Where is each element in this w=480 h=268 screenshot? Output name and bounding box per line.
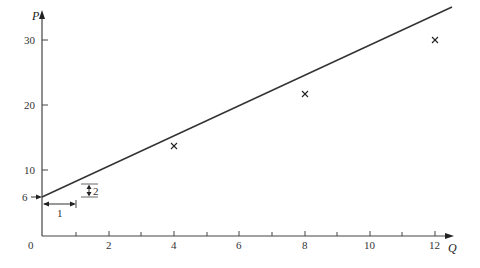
point-marker-4-14: [171, 143, 177, 149]
y-tick-20: 20: [24, 99, 36, 111]
x-tick-8: 8: [302, 239, 308, 251]
intercept-label: 6: [22, 191, 28, 203]
intercept-arrow-icon: [36, 195, 42, 200]
run-label: 1: [57, 207, 63, 219]
chart: P Q 0 30 20 10 2 4 6 8 10 12 6: [0, 0, 480, 268]
data-line: [42, 7, 452, 197]
origin-label: 0: [28, 239, 34, 251]
rise-label: 2: [93, 185, 99, 197]
x-tick-6: 6: [236, 239, 242, 251]
x-tick-4: 4: [171, 239, 177, 251]
y-ticks: [42, 40, 48, 170]
y-tick-10: 10: [24, 164, 36, 176]
x-axis-label: Q: [448, 241, 457, 255]
x-ticks: [76, 231, 435, 236]
x-tick-10: 10: [364, 239, 376, 251]
point-marker-12-30: [432, 37, 438, 43]
y-axis-arrow-icon: [39, 10, 45, 19]
y-axis-label: P: [31, 9, 40, 23]
x-axis-arrow-icon: [445, 233, 454, 239]
x-tick-2: 2: [106, 239, 112, 251]
point-marker-8-22: [302, 91, 308, 97]
x-tick-12: 12: [429, 239, 440, 251]
y-tick-30: 30: [24, 34, 36, 46]
